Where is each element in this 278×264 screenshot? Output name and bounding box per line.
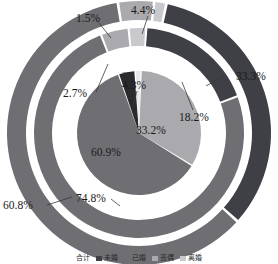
label-mid-27: 2.7% (63, 87, 87, 99)
label-inner-61: 60.9% (91, 146, 121, 158)
label-mid-18: 18.2% (179, 111, 209, 123)
legend-label-4: 离婚 (188, 254, 202, 262)
legend-label-1: 未婚 (104, 254, 118, 262)
label-mid-75: 74.8% (76, 192, 106, 204)
nested-pie-chart: 33.3% 60.8% 4.4% 1.5% 18.2% 74.8% 4.3% 2… (0, 0, 278, 264)
legend-item-2[interactable]: 已婚 (124, 254, 146, 262)
leader-mid-75 (111, 199, 120, 206)
label-inner-33: 33.2% (136, 124, 166, 136)
legend-item-4[interactable]: 离婚 (180, 254, 202, 262)
chart-legend: 合计 未婚 已婚 丧偶 离婚 (0, 252, 278, 264)
legend-swatch-4 (180, 256, 186, 261)
legend-item-1[interactable]: 未婚 (96, 254, 118, 262)
legend-item-3[interactable]: 丧偶 (152, 254, 174, 262)
legend-swatch-3 (152, 256, 158, 261)
label-mid-43: 4.3% (122, 79, 146, 91)
legend-label-0: 合计 (76, 254, 90, 262)
legend-label-2: 已婚 (132, 254, 146, 262)
label-outer-44: 4.4% (131, 4, 155, 16)
label-outer-33: 33.3% (236, 70, 266, 82)
legend-swatch-2 (124, 256, 130, 261)
legend-item-0[interactable]: 合计 (76, 254, 90, 262)
legend-swatch-1 (96, 256, 102, 261)
chart-svg: 33.3% 60.8% 4.4% 1.5% 18.2% 74.8% 4.3% 2… (0, 0, 278, 264)
label-outer-15: 1.5% (76, 12, 100, 24)
legend-label-3: 丧偶 (160, 254, 174, 262)
label-outer-61: 60.8% (3, 199, 33, 211)
